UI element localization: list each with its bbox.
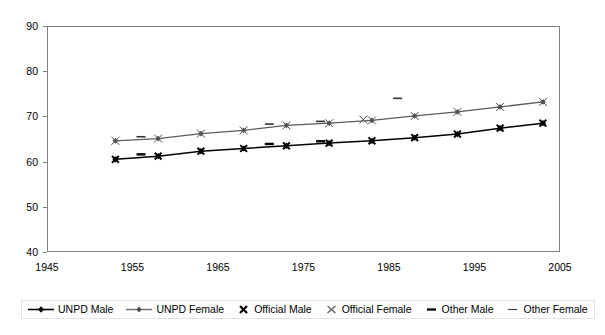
legend-item-unpd-male[interactable]: UNPD Male xyxy=(28,304,113,315)
ytick-mark-40 xyxy=(43,252,47,253)
ytick-label-80: 80 xyxy=(0,66,38,76)
legend-label: Other Male xyxy=(442,304,494,315)
ytick-mark-80 xyxy=(43,71,47,72)
life-expectancy-line-chart: 90 80 70 60 50 40 1945 1955 1965 1975 19… xyxy=(0,0,605,335)
xtick-label-2005: 2005 xyxy=(537,262,583,273)
xtick-label-1975: 1975 xyxy=(281,262,327,273)
legend-label: Official Male xyxy=(254,304,312,315)
ytick-label-90: 90 xyxy=(0,21,38,31)
legend-label: UNPD Male xyxy=(58,304,113,315)
xtick-label-1985: 1985 xyxy=(366,262,412,273)
legend: UNPD Male UNPD Female Official Male xyxy=(21,300,595,319)
ytick-mark-70 xyxy=(43,116,47,117)
x-thin-icon xyxy=(325,304,338,315)
xtick-label-1995: 1995 xyxy=(452,262,498,273)
legend-item-official-male[interactable]: Official Male xyxy=(237,304,312,315)
ytick-label-50: 50 xyxy=(0,202,38,212)
ytick-label-60: 60 xyxy=(0,157,38,167)
xtick-label-1945: 1945 xyxy=(24,262,70,273)
dash-bold-icon xyxy=(425,304,438,315)
ytick-label-40: 40 xyxy=(0,247,38,257)
xtick-label-1965: 1965 xyxy=(195,262,241,273)
legend-label: Official Female xyxy=(342,304,412,315)
dash-thin-icon xyxy=(506,304,519,315)
line-diamond-black-icon xyxy=(28,304,54,315)
legend-item-other-male[interactable]: Other Male xyxy=(425,304,494,315)
x-bold-icon xyxy=(237,304,250,315)
ytick-mark-90 xyxy=(43,26,47,27)
legend-item-official-female[interactable]: Official Female xyxy=(325,304,412,315)
legend-label: Other Female xyxy=(523,304,587,315)
legend-label: UNPD Female xyxy=(156,304,224,315)
line-diamond-grey-icon xyxy=(126,304,152,315)
plot-area xyxy=(47,26,560,252)
legend-item-unpd-female[interactable]: UNPD Female xyxy=(126,304,224,315)
ytick-mark-50 xyxy=(43,207,47,208)
legend-item-other-female[interactable]: Other Female xyxy=(506,304,587,315)
xtick-label-1955: 1955 xyxy=(110,262,156,273)
ytick-mark-60 xyxy=(43,162,47,163)
ytick-label-70: 70 xyxy=(0,111,38,121)
